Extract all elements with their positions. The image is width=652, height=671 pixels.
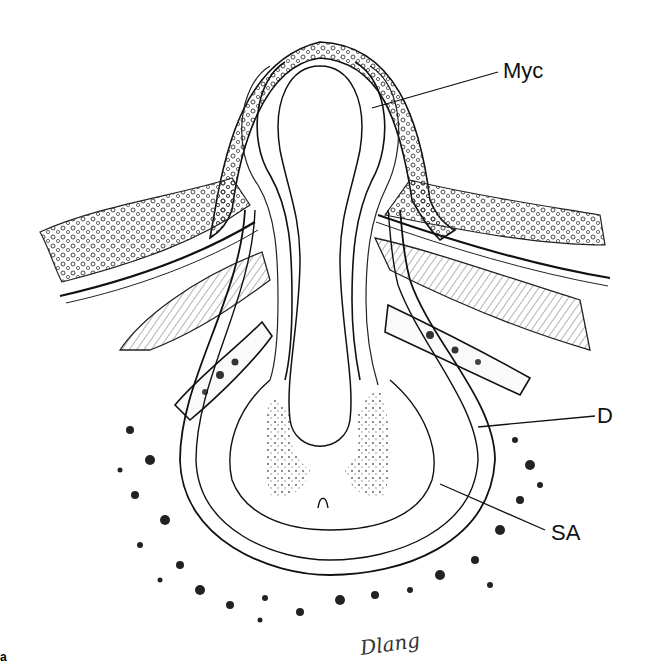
panel-letter: a bbox=[0, 650, 7, 664]
anatomical-illustration: Myc D SA Dlang a bbox=[0, 0, 652, 671]
left-vertebral-lamina bbox=[175, 322, 272, 420]
sa-leader-line bbox=[440, 484, 545, 530]
d-leader-line bbox=[478, 416, 595, 427]
scattered-tissue-fragments bbox=[118, 426, 544, 623]
label-d: D bbox=[597, 405, 613, 427]
label-myc: Myc bbox=[503, 60, 543, 82]
label-sa: SA bbox=[551, 522, 580, 544]
myelocele-cross-section-drawing bbox=[0, 0, 652, 671]
